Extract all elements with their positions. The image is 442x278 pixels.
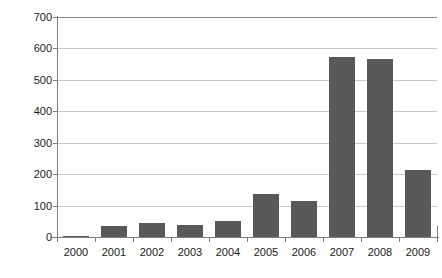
y-tick-label-600: 600 — [26, 43, 52, 54]
x-tick-label-2007: 2007 — [323, 246, 361, 258]
bar-2005 — [253, 194, 279, 237]
x-tick-mark-2001 — [133, 238, 134, 242]
x-tick-label-2003: 2003 — [171, 246, 209, 258]
x-tick-mark-2004 — [247, 238, 248, 242]
x-tick-mark-2008 — [399, 238, 400, 242]
bar-2009 — [405, 170, 431, 237]
y-tick-label-500: 500 — [26, 75, 52, 86]
x-tick-label-2002: 2002 — [133, 246, 171, 258]
y-tick-label-0: 0 — [26, 232, 52, 243]
y-tick-label-300: 300 — [26, 138, 52, 149]
bar-2002 — [139, 223, 165, 237]
x-tick-mark-2007 — [361, 238, 362, 242]
x-tick-label-2001: 2001 — [95, 246, 133, 258]
bar-series-group — [57, 17, 437, 237]
x-axis-line — [50, 237, 439, 238]
x-tick-label-2005: 2005 — [247, 246, 285, 258]
x-tick-label-2009: 2009 — [399, 246, 437, 258]
x-tick-label-2000: 2000 — [57, 246, 95, 258]
x-tick-mark-2005 — [285, 238, 286, 242]
x-tick-mark-2006 — [323, 238, 324, 242]
x-tick-label-2004: 2004 — [209, 246, 247, 258]
x-tick-mark-2003 — [209, 238, 210, 242]
y-tick-label-100: 100 — [26, 201, 52, 212]
bar-2007 — [329, 57, 355, 237]
bar-2001 — [101, 226, 127, 237]
y-tick-label-200: 200 — [26, 169, 52, 180]
x-axis-right-end-mark — [437, 226, 438, 238]
x-tick-mark-2002 — [171, 238, 172, 242]
bar-2004 — [215, 221, 241, 237]
bar-chart-figure: Annual count of articles 700 600 500 400… — [0, 0, 442, 278]
x-tick-mark-2009 — [437, 238, 438, 242]
y-tick-label-400: 400 — [26, 106, 52, 117]
bar-2006 — [291, 201, 317, 237]
y-axis-tick-group: 700 600 500 400 300 200 100 0 — [0, 0, 52, 278]
bar-2003 — [177, 225, 203, 237]
bar-2000 — [63, 236, 89, 237]
bar-2008 — [367, 59, 393, 237]
x-tick-label-2008: 2008 — [361, 246, 399, 258]
x-tick-mark-2000 — [95, 238, 96, 242]
y-tick-label-700: 700 — [26, 12, 52, 23]
x-tick-mark-origin — [57, 238, 58, 242]
x-tick-label-2006: 2006 — [285, 246, 323, 258]
